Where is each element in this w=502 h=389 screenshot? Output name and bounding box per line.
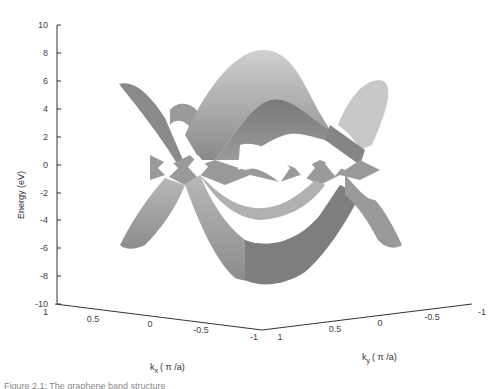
z-tick: -2 — [40, 188, 48, 198]
ky-tick: 1 — [277, 332, 282, 342]
z-tick: -4 — [40, 215, 48, 225]
figure-caption: Figure 2.1: The graphene band structure — [4, 382, 165, 389]
kx-tick: 1 — [43, 307, 48, 317]
ky-tick: -1 — [478, 307, 486, 317]
kx-tick: -0.5 — [193, 325, 209, 335]
kx-tick: 0 — [147, 319, 152, 329]
lower-band-surface — [120, 175, 402, 284]
z-tick: -8 — [40, 271, 48, 281]
z-tick: 8 — [43, 48, 48, 58]
kx-axis-label: kx( π /a) — [150, 362, 185, 374]
z-tick: 4 — [43, 104, 48, 114]
kx-tick: -1 — [250, 332, 258, 342]
ky-tick: 0 — [377, 318, 382, 328]
z-tick: -6 — [40, 243, 48, 253]
kx-axis: 1 0.5 0 -0.5 -1 kx( π /a) — [43, 304, 262, 374]
ky-tick: 0.5 — [329, 324, 342, 334]
ky-axis: 1 0.5 0 -0.5 -1 ky( π /a) — [262, 304, 486, 365]
z-tick: 6 — [43, 76, 48, 86]
kx-tick: 0.5 — [87, 314, 100, 324]
z-tick: 10 — [38, 20, 48, 30]
surface-plot: 10 8 6 4 2 0 -2 -4 -6 -8 -10 Energy (eV)… — [0, 0, 502, 389]
z-axis-label: Energy (eV) — [16, 171, 26, 219]
z-tick: 2 — [43, 132, 48, 142]
ky-axis-label: ky( π /a) — [362, 352, 397, 365]
z-axis-ticks — [57, 25, 61, 304]
z-tick: 0 — [43, 160, 48, 170]
ky-tick: -0.5 — [424, 312, 440, 322]
z-axis: 10 8 6 4 2 0 -2 -4 -6 -8 -10 Energy (eV) — [16, 20, 61, 309]
